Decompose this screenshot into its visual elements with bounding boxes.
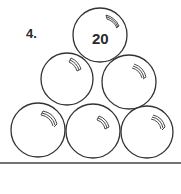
ball-bottom-left	[11, 103, 65, 157]
ball-bottom-middle	[66, 104, 120, 158]
ball-middle-left	[41, 53, 93, 105]
glare-icon	[41, 111, 57, 127]
ball-pyramid-diagram: 4. 20	[0, 0, 181, 194]
glare-icon	[97, 116, 109, 129]
ball-middle-right	[102, 55, 156, 109]
ball-bottom-right	[121, 106, 173, 158]
glare-icon	[151, 115, 165, 130]
glare-icon	[69, 58, 81, 71]
glare-icon	[106, 15, 119, 28]
glare-icon	[132, 64, 146, 79]
problem-number: 4.	[26, 27, 37, 40]
ball-top-value: 20	[92, 31, 109, 46]
